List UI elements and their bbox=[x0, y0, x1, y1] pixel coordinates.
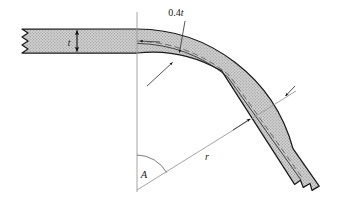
offset-label-prefix: 0.4 bbox=[168, 7, 181, 18]
inner-face-leader bbox=[147, 63, 173, 87]
radius-arrow bbox=[233, 119, 250, 130]
thickness-label: t bbox=[68, 38, 71, 48]
curved-beam-diagram: t 0.4t r A bbox=[0, 0, 337, 206]
radius-label: r bbox=[205, 151, 209, 162]
offset-label-symbol: t bbox=[181, 7, 184, 18]
beam-body bbox=[22, 29, 319, 190]
inner-face-leader-line bbox=[147, 63, 173, 87]
beam-outline bbox=[22, 29, 319, 190]
figure-root: t 0.4t r A bbox=[0, 0, 337, 206]
offset-label: 0.4t bbox=[168, 7, 184, 18]
radius-arrow-line bbox=[233, 119, 250, 130]
angle-label: A bbox=[140, 169, 148, 180]
